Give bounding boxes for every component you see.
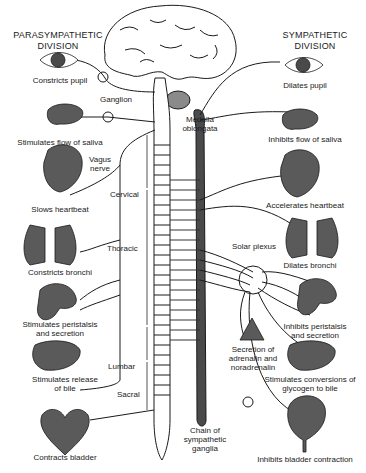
spinal-cord [153,78,170,460]
adrenal-gland-icon [240,318,264,340]
vagus-nerve-label: Vagus nerve [82,155,118,173]
nervous-system-diagram [0,0,366,473]
label-line: noradrenalin [222,363,284,372]
medulla-label: Medulla oblongata [175,115,225,133]
symp-adrenal-effect: Secretion of adrenalin and noradrenalin [222,345,284,372]
label-line: Chain of [180,426,230,435]
label-line: Stimulates peristalsis [10,320,110,329]
symp-liver-effect: Stimulates conversions of glycogen to bi… [255,375,365,393]
para-digestion-effect: Stimulates peristalsis and secretion [10,320,110,338]
para-liver-effect: Stimulates release of bile [20,375,110,393]
lungs-icon [286,218,338,258]
label-line: sympathetic [180,435,230,444]
label-line: oblongata [175,124,225,133]
label-line: Inhibits peristalsis [270,322,360,331]
para-lungs-effect: Constricts bronchi [15,268,105,277]
symp-eye-effect: Dilates pupil [270,81,340,90]
sympathetic-chain [194,110,206,426]
brain-icon [104,5,236,79]
symp-bladder-effect: Inhibits bladder contraction [245,455,365,464]
symp-saliva-effect: Inhibits flow of saliva [255,135,355,144]
header-line: DIVISION [270,41,360,52]
rami-connections [170,180,200,340]
heart-icon [281,150,320,197]
stomach-intestines-icon [297,279,336,315]
label-line: adrenalin and [222,354,284,363]
label-line: Secretion of [222,345,284,354]
cervical-label: Cervical [110,190,139,199]
lungs-icon [24,225,76,265]
salivary-gland-icon [282,109,318,129]
thoracic-label: Thoracic [107,244,138,253]
liver-icon [33,341,80,370]
label-line: nerve [82,164,118,173]
label-line: and secretion [10,329,110,338]
label-line: of bile [20,384,110,393]
para-eye-effect: Constricts pupil [20,76,100,85]
para-saliva-effect: Stimulates flow of saliva [5,138,115,147]
bladder-icon [288,396,326,452]
header-line: PARASYMPATHETIC [6,30,110,41]
label-line: and secretion [270,331,360,340]
label-line: ganglia [180,444,230,453]
header-line: SYMPATHETIC [270,30,360,41]
salivary-gland-icon [47,104,83,124]
sacral-label: Sacral [117,390,140,399]
label-line: Stimulates release [20,375,110,384]
label-line: Stimulates conversions of [255,375,365,384]
solar-plexus-label: Solar plexus [232,242,276,251]
stomach-intestines-icon [37,284,76,320]
liver-icon [288,341,335,370]
lumbar-label: Lumbar [108,362,135,371]
symp-digestion-effect: Inhibits peristalsis and secretion [270,322,360,340]
symp-heart-effect: Accelerates heartbeat [255,201,355,210]
heart-icon [44,145,83,192]
ganglion-label: Ganglion [100,95,132,104]
cerebellum-icon [166,91,190,109]
sympathetic-header: SYMPATHETIC DIVISION [270,30,360,52]
bladder-icon [41,409,89,455]
label-line: Medulla [175,115,225,124]
label-line: glycogen to bile [255,384,365,393]
para-heart-effect: Slows heartbeat [20,205,100,214]
symp-lungs-effect: Dilates bronchi [270,261,350,270]
para-bladder-effect: Contracts bladder [20,453,110,462]
chain-label: Chain of sympathetic ganglia [180,426,230,453]
solar-plexus-ring [239,266,267,294]
header-line: DIVISION [6,41,110,52]
label-line: Vagus [82,155,118,164]
parasympathetic-header: PARASYMPATHETIC DIVISION [6,30,110,52]
